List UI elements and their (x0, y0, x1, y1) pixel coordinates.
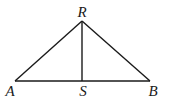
label-a: A (4, 83, 15, 99)
label-b: B (148, 83, 157, 99)
label-r: R (76, 4, 86, 20)
label-s: S (79, 83, 87, 99)
segment-rb (82, 21, 150, 81)
segment-ar (15, 21, 82, 81)
triangle-diagram: R A S B (0, 0, 169, 106)
